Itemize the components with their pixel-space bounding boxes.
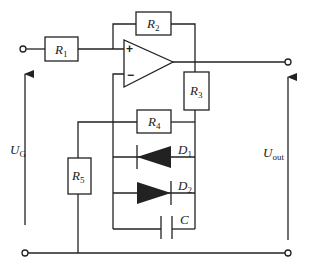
svg-text:D2: D2 [177, 178, 192, 195]
input-terminal [20, 46, 26, 52]
wire [78, 122, 137, 158]
op-amp: + − [124, 40, 173, 87]
diode-d2: D2 [137, 178, 192, 205]
resistor-r2: R2 [136, 12, 171, 35]
bottom-left-terminal [22, 250, 28, 256]
svg-text:D1: D1 [177, 142, 192, 159]
resistor-r1: R1 [45, 37, 78, 61]
input-voltage-label: UG [10, 142, 26, 159]
output-terminal [285, 59, 291, 65]
resistor-r5: R5 [68, 158, 91, 194]
diode-d1: D1 [137, 142, 192, 169]
svg-text:C: C [180, 212, 189, 227]
resistor-r3: R3 [184, 72, 209, 110]
plus-input-sign: + [126, 42, 133, 56]
output-voltage-label: Uout [263, 145, 284, 162]
wire [113, 74, 124, 229]
bottom-right-terminal [285, 250, 291, 256]
resistor-r4: R4 [137, 110, 171, 133]
capacitor-c: C [161, 212, 189, 239]
wire [171, 24, 195, 72]
circuit-diagram: R1 R2 + − R3 R4 D1 D2 [0, 0, 318, 266]
minus-input-sign: − [127, 68, 134, 82]
